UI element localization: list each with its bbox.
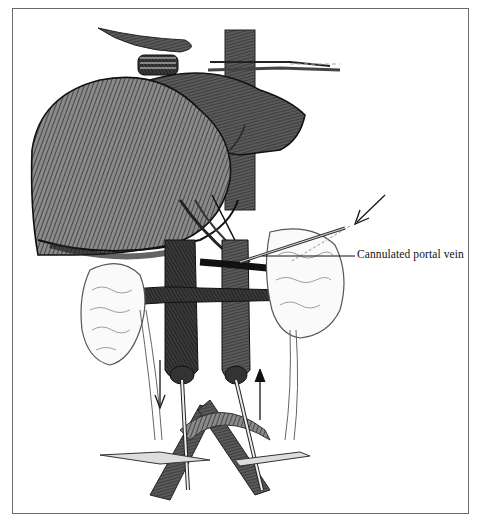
retractors [100, 452, 310, 466]
label-cannulated-portal-vein: Cannulated portal vein [357, 248, 464, 260]
anatomical-illustration [0, 0, 478, 523]
flow-arrow-up [255, 369, 265, 420]
diaphragm-remnant [98, 28, 191, 75]
kidney-left [266, 229, 344, 440]
inferior-vena-cava [165, 240, 198, 384]
